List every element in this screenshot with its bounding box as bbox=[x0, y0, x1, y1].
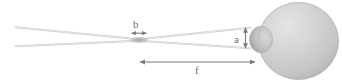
laser-beam-rays bbox=[16, 27, 251, 48]
label-a: a bbox=[234, 34, 239, 45]
eyeball-group bbox=[250, 3, 339, 80]
cornea-bump bbox=[250, 26, 273, 52]
label-b: b bbox=[133, 19, 139, 30]
optics-diagram-figure: b a f bbox=[0, 0, 342, 83]
beam-waist-group bbox=[131, 37, 148, 42]
diagram-canvas bbox=[0, 0, 342, 83]
beam-waist-ellipse bbox=[131, 37, 148, 42]
label-f: f bbox=[195, 65, 199, 76]
